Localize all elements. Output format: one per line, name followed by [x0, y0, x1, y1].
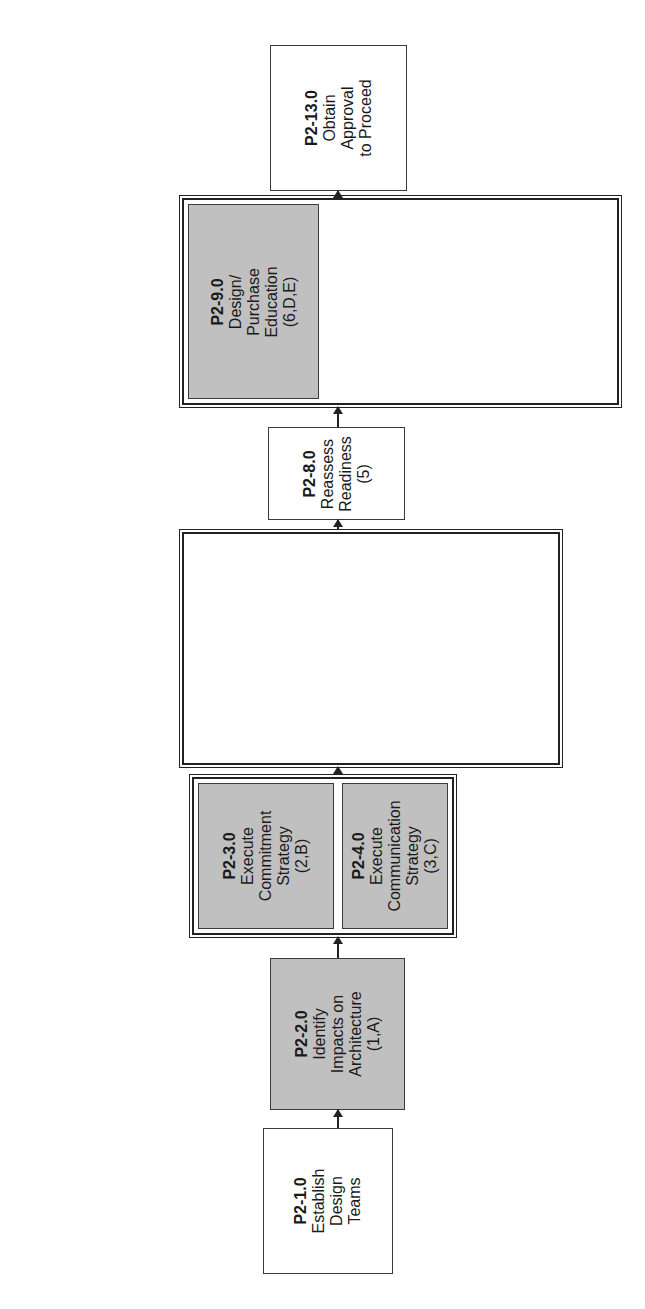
arrow-icon	[337, 767, 339, 775]
arrow-icon	[337, 1110, 339, 1128]
node-p2-4: P2-4.0 Execute Communication Strategy (3…	[342, 783, 448, 929]
node-p2-9: P2-9.0 Design/ Purchase Education (6,D,E…	[188, 204, 319, 399]
arrow-icon	[337, 407, 339, 427]
arrow-icon	[337, 520, 339, 530]
node-p2-1: P2-1.0 Establish Design Teams	[263, 1128, 393, 1274]
arrow-icon	[337, 191, 339, 196]
node-p2-8: P2-8.0 Reassess Readiness (5)	[268, 427, 405, 520]
node-p2-3: P2-3.0 Execute Commitment Strategy (2,B)	[198, 783, 334, 929]
arrow-icon	[337, 937, 339, 958]
node-id: P2-13.0	[303, 79, 321, 156]
group-design-changes	[182, 532, 560, 765]
node-p2-2: P2-2.0 Identify Impacts on Architecture …	[270, 958, 405, 1110]
node-p2-13: P2-13.0 Obtain Approval to Proceed	[270, 45, 407, 191]
